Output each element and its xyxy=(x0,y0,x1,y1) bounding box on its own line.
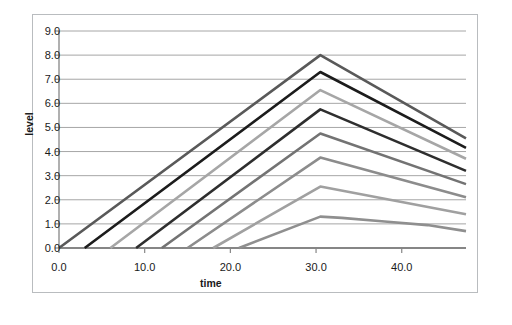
x-tick-label: 30.0 xyxy=(305,261,326,273)
gridlines-group xyxy=(59,31,466,248)
y-tick-label: 8.0 xyxy=(26,49,60,61)
line-series-2 xyxy=(85,72,466,248)
axes-group xyxy=(59,31,466,248)
x-tick-label: 20.0 xyxy=(220,261,241,273)
y-tick-label: 0.0 xyxy=(26,242,60,254)
x-tick-label: 0.0 xyxy=(51,261,66,273)
x-axis-title: time xyxy=(200,277,222,289)
y-tick-label: 9.0 xyxy=(26,25,60,37)
y-axis-tick-labels: 0.01.02.03.04.05.06.07.08.09.0 xyxy=(20,0,60,325)
plot-area xyxy=(0,0,512,325)
chart-canvas xyxy=(0,0,512,325)
chart-figure: 0.01.02.03.04.05.06.07.08.09.0 0.010.020… xyxy=(0,0,512,325)
y-tick-label: 3.0 xyxy=(26,170,60,182)
x-tick-label: 10.0 xyxy=(134,261,155,273)
x-axis-tick-labels: 0.010.020.030.040.0 xyxy=(0,256,512,276)
line-series-8 xyxy=(239,217,466,248)
y-tick-label: 1.0 xyxy=(26,218,60,230)
x-tick-label: 40.0 xyxy=(391,261,412,273)
y-tick-label: 7.0 xyxy=(26,73,60,85)
y-axis-title: level xyxy=(23,94,35,154)
line-series-6 xyxy=(188,158,466,248)
line-series-4 xyxy=(136,109,466,248)
y-tick-label: 2.0 xyxy=(26,194,60,206)
